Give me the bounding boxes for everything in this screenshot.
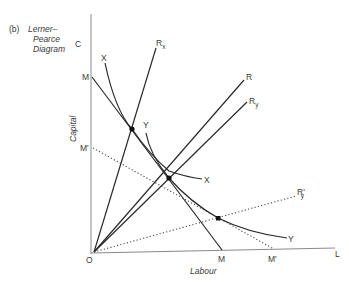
y-axis-title: Capital [68,114,78,142]
isocost-m-prime-label-top: M' [80,143,89,153]
ray-r [94,80,244,252]
isoquant-x-label-end: X [204,175,210,185]
isocost-m [92,77,222,250]
title-line-2: Pearce [33,34,60,44]
ray-rx-label: Rx [156,38,166,50]
y-axis-top-label: C [75,39,81,49]
title-line-3: Diagram [33,44,65,54]
tangency-point-x [129,126,134,131]
isocost-m-label-top: M [82,72,89,82]
lerner-pearce-diagram: (b) Lerner– Pearce Diagram C L O Labour … [0,0,349,282]
ray-ry-label: Ry [249,96,259,109]
tangency-point-y [166,175,171,180]
isoquant-y [146,133,287,238]
title-line-1: Lerner– [28,24,58,34]
ray-r-label: R [246,72,252,82]
x-axis-end-label: L [335,249,340,259]
isocost-m-label-bottom: M [218,254,225,264]
isoquant-y-label-end: Y [288,234,294,244]
x-axis-title: Labour [190,266,218,276]
isoquant-x-label-top: X [101,53,107,63]
isocost-m-prime-label-bottom: M' [268,254,277,264]
ray-ry-prime-label: R'y [297,187,305,200]
x-axis [91,248,335,253]
isoquant-x [105,63,202,179]
origin-label: O [86,255,93,265]
panel-label: (b) [9,24,20,34]
tangency-point-y-prime [216,216,221,221]
isoquant-y-label-top: Y [143,120,149,130]
